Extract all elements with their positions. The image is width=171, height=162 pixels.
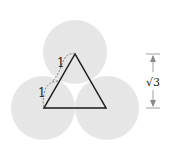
label-upper-side: 1 bbox=[57, 56, 65, 70]
arrowhead-up-icon bbox=[150, 55, 156, 62]
circle-top bbox=[43, 20, 107, 84]
label-lower-side: 1 bbox=[38, 86, 46, 100]
arrowhead-down-icon bbox=[150, 100, 156, 107]
label-height: √3 bbox=[146, 76, 160, 89]
circles-triangle-diagram: 1 1 √3 bbox=[0, 0, 171, 162]
